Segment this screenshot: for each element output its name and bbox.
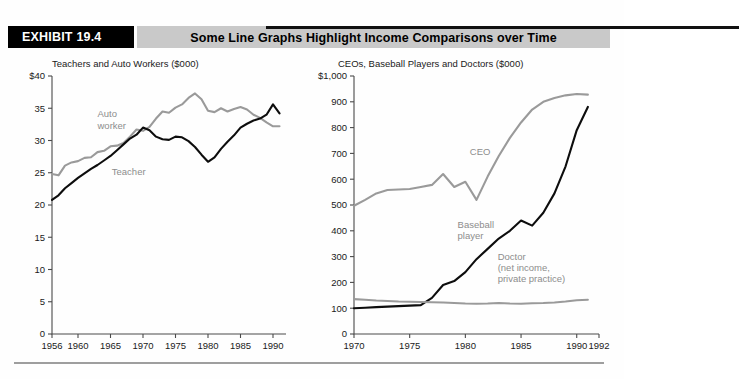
x-tick-label: 1960 — [67, 340, 88, 351]
series-line-doctor-net-income-private-practice — [354, 299, 588, 304]
chart-left-title: Teachers and Auto Workers ($000) — [14, 58, 294, 69]
chart-right-title: CEOs, Baseball Players and Doctors ($000… — [308, 58, 613, 69]
x-tick-label: 1975 — [165, 340, 186, 351]
x-tick-label: 1985 — [510, 340, 531, 351]
exhibit-header: EXHIBIT 19.4 Some Line Graphs Highlight … — [8, 26, 610, 48]
y-tick-label: 800 — [331, 122, 347, 133]
y-tick-label: 5 — [40, 296, 45, 307]
y-tick-label: 700 — [331, 148, 347, 159]
x-tick-label: 1970 — [132, 340, 153, 351]
chart-right-canvas: 0100200300400500600700800900$1,000197019… — [308, 70, 613, 358]
y-tick-label: $40 — [29, 70, 45, 81]
y-tick-label: 10 — [34, 264, 45, 275]
series-annotation: (net income, — [498, 262, 550, 273]
x-tick-label: 1985 — [230, 340, 251, 351]
y-tick-label: 400 — [331, 225, 347, 236]
x-tick-label: 1980 — [455, 340, 476, 351]
series-annotation: CEO — [470, 146, 491, 157]
y-tick-label: 500 — [331, 199, 347, 210]
x-tick-label: 1956 — [41, 340, 62, 351]
y-tick-label: $1,000 — [318, 70, 347, 81]
series-annotation: worker — [97, 120, 127, 131]
y-tick-label: 900 — [331, 96, 347, 107]
footer-divider — [14, 362, 604, 364]
x-tick-label: 1990 — [262, 340, 283, 351]
exhibit-title-block: Some Line Graphs Highlight Income Compar… — [137, 26, 610, 48]
y-tick-label: 15 — [34, 232, 45, 243]
chart-ceos-baseball-doctors: CEOs, Baseball Players and Doctors ($000… — [308, 58, 613, 358]
series-line-teacher — [52, 104, 280, 199]
y-tick-label: 100 — [331, 303, 347, 314]
y-tick-label: 0 — [40, 328, 45, 339]
y-tick-label: 35 — [34, 103, 45, 114]
x-tick-label: 1970 — [343, 340, 364, 351]
y-tick-label: 25 — [34, 167, 45, 178]
x-tick-label: 1990 — [566, 340, 587, 351]
x-tick-label: 1980 — [197, 340, 218, 351]
exhibit-number-label: EXHIBIT 19.4 — [22, 30, 102, 44]
series-annotation: Teacher — [112, 166, 146, 177]
series-line-auto-worker — [52, 93, 280, 175]
series-annotation: player — [458, 230, 484, 241]
chart-teachers-auto-workers: Teachers and Auto Workers ($000) 0510152… — [14, 58, 294, 358]
y-tick-label: 0 — [342, 328, 347, 339]
y-tick-label: 200 — [331, 277, 347, 288]
exhibit-label-block: EXHIBIT 19.4 — [8, 26, 134, 48]
series-annotation: Auto — [98, 108, 118, 119]
series-annotation: private practice) — [498, 273, 566, 284]
exhibit-title: Some Line Graphs Highlight Income Compar… — [137, 31, 610, 45]
y-tick-label: 600 — [331, 174, 347, 185]
y-tick-label: 300 — [331, 251, 347, 262]
y-tick-label: 20 — [34, 199, 45, 210]
x-tick-label: 1975 — [399, 340, 420, 351]
y-tick-label: 30 — [34, 135, 45, 146]
chart-left-canvas: 05101520253035$4019561960196519701975198… — [14, 70, 294, 358]
x-tick-label: 1992 — [588, 340, 609, 351]
x-tick-label: 1965 — [100, 340, 121, 351]
series-annotation: Baseball — [458, 219, 494, 230]
series-annotation: Doctor — [498, 251, 526, 262]
title-top-rule — [266, 26, 739, 29]
